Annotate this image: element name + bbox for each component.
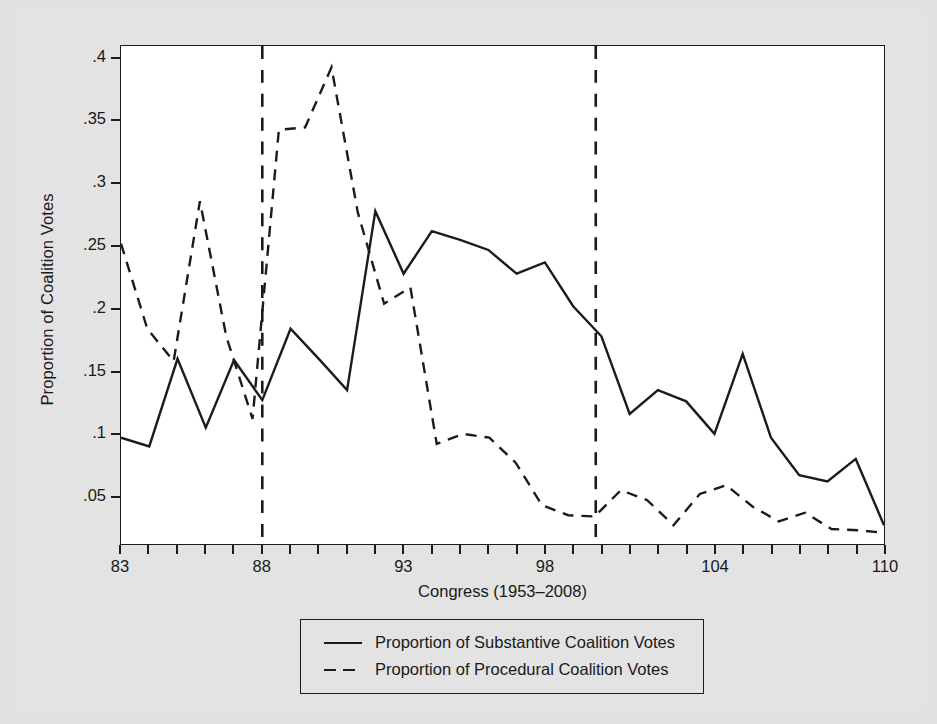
series-line-procedural <box>121 67 884 532</box>
x-tick-mark <box>742 545 744 554</box>
x-tick-mark <box>601 545 603 554</box>
x-tick-label: 98 <box>515 557 575 576</box>
x-tick-mark <box>827 545 829 554</box>
y-tick-mark <box>111 182 120 184</box>
legend-label-procedural: Proportion of Procedural Coalition Votes <box>375 660 669 679</box>
y-tick-mark <box>111 119 120 121</box>
plot-area <box>120 45 885 545</box>
y-tick-label: .05 <box>83 486 106 505</box>
y-tick-mark <box>111 308 120 310</box>
x-axis-title: Congress (1953–2008) <box>120 582 885 601</box>
x-tick-mark <box>516 545 518 554</box>
x-tick-mark <box>459 545 461 554</box>
x-tick-mark <box>119 545 121 554</box>
figure-canvas: Proportion of Coalition Votes .05.1.15.2… <box>14 10 923 710</box>
y-tick-mark <box>111 433 120 435</box>
reference-lines <box>262 46 595 544</box>
x-tick-mark <box>686 545 688 554</box>
x-tick-mark <box>346 545 348 554</box>
y-tick-mark <box>111 496 120 498</box>
x-tick-mark <box>147 545 149 554</box>
x-tick-mark <box>856 545 858 554</box>
chart-legend: Proportion of Substantive Coalition Vote… <box>300 619 704 694</box>
legend-item-substantive: Proportion of Substantive Coalition Vote… <box>301 629 703 656</box>
legend-label-substantive: Proportion of Substantive Coalition Vote… <box>375 633 675 652</box>
y-tick-label: .15 <box>83 361 106 380</box>
legend-swatch-solid-line-icon <box>323 636 363 650</box>
x-tick-mark <box>289 545 291 554</box>
x-tick-mark <box>572 545 574 554</box>
y-tick-label: .4 <box>92 47 106 66</box>
x-tick-mark <box>657 545 659 554</box>
figure-container: Proportion of Coalition Votes .05.1.15.2… <box>0 0 937 724</box>
x-tick-mark <box>771 545 773 554</box>
y-tick-label: .25 <box>83 235 106 254</box>
y-tick-label: .2 <box>92 298 106 317</box>
y-tick-label: .35 <box>83 109 106 128</box>
y-tick-mark <box>111 57 120 59</box>
x-tick-label: 83 <box>90 557 150 576</box>
y-tick-mark <box>111 371 120 373</box>
x-tick-mark <box>884 545 886 554</box>
y-tick-label: .1 <box>92 423 106 442</box>
x-tick-mark <box>487 545 489 554</box>
y-tick-label: .3 <box>92 172 106 191</box>
x-tick-label: 93 <box>373 557 433 576</box>
x-tick-mark <box>431 545 433 554</box>
x-tick-mark <box>261 545 263 554</box>
x-tick-label: 104 <box>685 557 745 576</box>
x-tick-mark <box>714 545 716 554</box>
legend-swatch-dashed-line-icon <box>323 663 363 677</box>
x-tick-mark <box>176 545 178 554</box>
x-tick-mark <box>317 545 319 554</box>
x-tick-mark <box>204 545 206 554</box>
x-tick-mark <box>232 545 234 554</box>
plot-svg <box>121 46 884 544</box>
x-tick-label: 110 <box>855 557 915 576</box>
x-tick-label: 88 <box>232 557 292 576</box>
x-tick-mark <box>374 545 376 554</box>
y-tick-mark <box>111 245 120 247</box>
x-tick-mark <box>799 545 801 554</box>
series-lines <box>121 67 884 532</box>
x-tick-mark <box>544 545 546 554</box>
legend-item-procedural: Proportion of Procedural Coalition Votes <box>301 656 703 683</box>
x-tick-mark <box>402 545 404 554</box>
x-tick-mark <box>629 545 631 554</box>
y-axis-title: Proportion of Coalition Votes <box>38 20 57 580</box>
